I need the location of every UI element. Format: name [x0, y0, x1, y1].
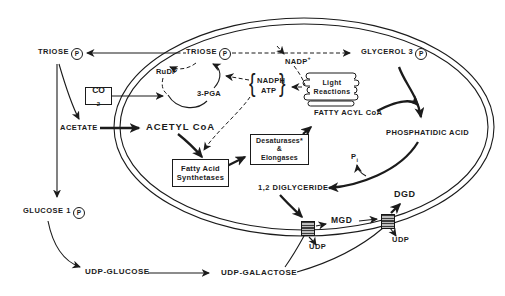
- arrow-diglyceride-to-site1: [280, 195, 302, 217]
- co2-text: CO2: [86, 85, 111, 107]
- phosphate-icon: P: [219, 48, 231, 60]
- nadp-sup: +: [307, 55, 310, 61]
- arrow-pa-to-diglyceride: [329, 142, 418, 188]
- label-udp-site2: UDP: [392, 236, 409, 244]
- label-udp-site1: UDP: [309, 243, 326, 251]
- label-nadp: NADP+: [285, 56, 311, 65]
- light-line2: Reactions: [313, 88, 350, 95]
- label-phosphatidic-acid: PHOSPHATIDIC ACID: [386, 129, 469, 137]
- arrow-site1-to-mgd: [316, 224, 326, 226]
- pi-sub: i: [357, 157, 358, 163]
- label-atp: ATP: [261, 87, 276, 95]
- phosphate-icon: P: [73, 207, 85, 219]
- label-udp-galactose: UDP-GALACTOSE: [221, 269, 297, 277]
- transferase-site-1: [301, 221, 315, 236]
- label-acetate: ACETATE: [60, 124, 98, 132]
- arrow-fattyacyl-to-pa: [377, 101, 418, 111]
- arrow-pga-to-triose: [213, 64, 220, 88]
- label-triose-p-stroma: TRIOSEP: [186, 48, 231, 60]
- transferase-site-2: [381, 214, 395, 229]
- fas-line1: Fatty Acid: [173, 164, 228, 173]
- line-rudp-to-co2-junction: [162, 78, 167, 94]
- fatty-acid-synthetases-box: Fatty Acid Synthetases: [172, 159, 229, 187]
- label-pi: Pi: [351, 153, 358, 163]
- phosphate-icon: P: [415, 48, 427, 60]
- co2-box: CO2: [85, 87, 112, 105]
- arrow-acetylcoa-to-fas: [178, 134, 202, 157]
- glucose-text: GLUCOSE 1: [23, 206, 71, 215]
- arrow-desaturases-to-fattyacyl: [303, 127, 311, 134]
- arrow-fas-to-desaturases: [227, 157, 245, 166]
- fas-line2: Synthetases: [173, 173, 228, 182]
- brace-open: {: [249, 70, 256, 96]
- desaturases-elongases-box: Desaturases* & Elongases: [250, 134, 309, 165]
- arrow-site2-to-dgd: [391, 204, 400, 213]
- label-diglyceride: 1,2 DIGLYCERIDE: [258, 184, 329, 192]
- light-line1: Light: [322, 79, 341, 86]
- label-udp-glucose: UDP-GLUCOSE: [85, 268, 150, 276]
- glycerol-text: GLYCEROL 3: [361, 47, 413, 56]
- label-acetyl-coa: ACETYL CoA: [146, 122, 215, 132]
- arrow-glucose1p-to-udpglucose: [48, 221, 80, 267]
- label-fatty-acyl-coa: FATTY ACYL CoA: [314, 109, 382, 117]
- triose-out-text: TRIOSE: [38, 47, 69, 56]
- desat-line3: Elongases: [251, 154, 308, 163]
- label-3pga: 3-PGA: [197, 90, 221, 98]
- line-udpgalactose-to-site1: [285, 236, 304, 267]
- nadp-text: NADP: [285, 57, 307, 66]
- triose-in-text: TRIOSE: [186, 47, 217, 56]
- label-glycerol-3-p: GLYCEROL 3P: [361, 48, 427, 60]
- phosphate-icon: P: [71, 48, 83, 60]
- arrow-pi-release: [357, 165, 366, 176]
- label-triose-p-cytosol: TRIOSEP: [38, 48, 83, 60]
- label-glucose-1-p: GLUCOSE 1P: [23, 207, 85, 219]
- label-nadph: NADPH: [257, 77, 285, 85]
- label-mgd: MGD: [331, 216, 352, 225]
- desat-line1: Desaturases*: [251, 137, 308, 146]
- desat-line2: &: [251, 145, 308, 154]
- label-dgd: DGD: [394, 190, 416, 199]
- lipid-synthesis-pathway-diagram: TRIOSEP TRIOSEP GLYCEROL 3P NADP+ { } NA…: [0, 0, 505, 296]
- arrow-mgd-to-site2: [359, 219, 377, 221]
- arrow-triose-to-acetate: [59, 64, 79, 119]
- label-light-reactions: Light Reactions: [310, 78, 354, 96]
- label-rudp: RuDP: [156, 68, 177, 76]
- arrow-nadph-to-calvin: [226, 76, 249, 80]
- arrow-glycerol-to-pa: [399, 67, 421, 117]
